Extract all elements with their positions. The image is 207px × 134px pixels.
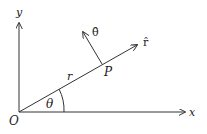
radius-label: r xyxy=(67,70,73,83)
angle-arc xyxy=(59,89,64,112)
r-hat-label: r̂ xyxy=(143,36,149,49)
radial-line xyxy=(19,45,137,112)
origin-label: O xyxy=(9,114,19,128)
y-axis-label: y xyxy=(15,6,23,19)
point-p-label: P xyxy=(103,65,113,79)
polar-coordinates-diagram: y x O r̂ r P θ̂ θ xyxy=(0,0,207,134)
theta-hat-label: θ̂ xyxy=(92,26,99,39)
angle-theta-label: θ xyxy=(46,97,54,111)
x-axis-label: x xyxy=(189,106,196,119)
